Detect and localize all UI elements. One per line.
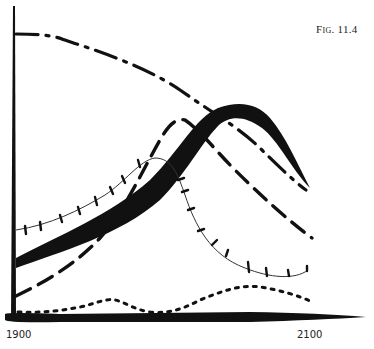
series-thick-brush: [16, 104, 310, 268]
series-dotted: [18, 286, 312, 312]
figure-label: Fig. 11.4: [316, 23, 358, 35]
y-axis: [11, 6, 16, 318]
x-tick-start: 1900: [6, 329, 31, 340]
x-axis: [5, 312, 366, 322]
series-long-dash: [16, 120, 312, 296]
x-tick-end: 2100: [297, 329, 322, 340]
chart-canvas: [0, 0, 374, 349]
